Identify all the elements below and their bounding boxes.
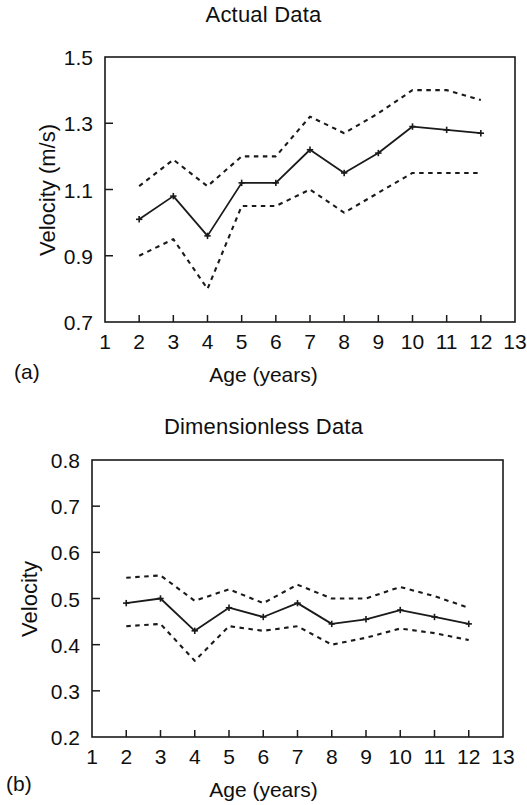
- series-line-bound: [139, 90, 481, 186]
- y-tick-label: 0.2: [51, 726, 80, 749]
- x-tick-label: 6: [270, 330, 282, 353]
- x-tick-label: 11: [424, 745, 446, 768]
- x-tick-label: 13: [491, 745, 514, 768]
- figure-panel-b: Dimensionless Data Velocity 123456789101…: [0, 400, 527, 805]
- y-tick-label: 0.9: [64, 245, 93, 268]
- y-tick-label: 0.7: [64, 311, 93, 334]
- y-tick-label: 0.6: [51, 541, 80, 564]
- data-point-marker: [466, 621, 472, 627]
- x-tick-label: 2: [120, 745, 132, 768]
- series-line-bound: [126, 624, 469, 661]
- y-tick-label: 1.3: [64, 112, 93, 135]
- plot-area-actual-data: 123456789101112130.70.91.11.31.5: [0, 0, 527, 400]
- y-tick-label: 0.7: [51, 495, 80, 518]
- x-tick-label: 3: [155, 745, 167, 768]
- series-line-mean: [139, 127, 481, 236]
- data-point-marker: [260, 614, 266, 620]
- x-tick-label: 1: [99, 330, 111, 353]
- x-tick-label: 6: [257, 745, 269, 768]
- y-tick-label: 1.1: [64, 179, 93, 202]
- x-tick-label: 10: [389, 745, 412, 768]
- data-point-marker: [431, 614, 437, 620]
- data-point-marker: [123, 600, 129, 606]
- x-tick-label: 7: [292, 745, 304, 768]
- x-tick-label: 3: [167, 330, 179, 353]
- x-axis-title-a: Age (years): [0, 363, 527, 387]
- y-tick-label: 0.3: [51, 680, 80, 703]
- x-tick-label: 13: [503, 330, 526, 353]
- y-tick-label: 0.8: [51, 449, 80, 472]
- x-tick-label: 9: [360, 745, 372, 768]
- data-point-marker: [478, 130, 484, 136]
- data-point-marker: [397, 607, 403, 613]
- plot-area-dimensionless-data: 123456789101112130.20.30.40.50.60.70.8: [0, 400, 527, 805]
- panel-label-a: (a): [14, 360, 40, 384]
- data-point-marker: [363, 616, 369, 622]
- x-tick-label: 11: [436, 330, 458, 353]
- plot-frame: [92, 460, 503, 737]
- y-tick-label: 0.5: [51, 588, 80, 611]
- x-tick-label: 5: [236, 330, 248, 353]
- series-line-bound: [139, 173, 481, 289]
- y-tick-label: 0.4: [51, 634, 81, 657]
- x-tick-label: 4: [189, 745, 201, 768]
- y-tick-label: 1.5: [64, 46, 93, 69]
- x-tick-label: 1: [86, 745, 98, 768]
- panel-label-b: (b): [6, 772, 32, 796]
- x-tick-label: 8: [326, 745, 338, 768]
- x-tick-label: 8: [338, 330, 350, 353]
- x-axis-title-b: Age (years): [0, 778, 527, 802]
- x-tick-label: 12: [457, 745, 480, 768]
- x-tick-label: 9: [372, 330, 384, 353]
- x-tick-label: 2: [133, 330, 145, 353]
- plot-frame: [105, 57, 515, 322]
- x-tick-label: 12: [469, 330, 492, 353]
- data-point-marker: [443, 127, 449, 133]
- figure-panel-a: Actual Data Velocity (m/s) 1234567891011…: [0, 0, 527, 400]
- x-tick-label: 7: [304, 330, 316, 353]
- x-tick-label: 4: [202, 330, 214, 353]
- x-tick-label: 10: [401, 330, 424, 353]
- x-tick-label: 5: [223, 745, 235, 768]
